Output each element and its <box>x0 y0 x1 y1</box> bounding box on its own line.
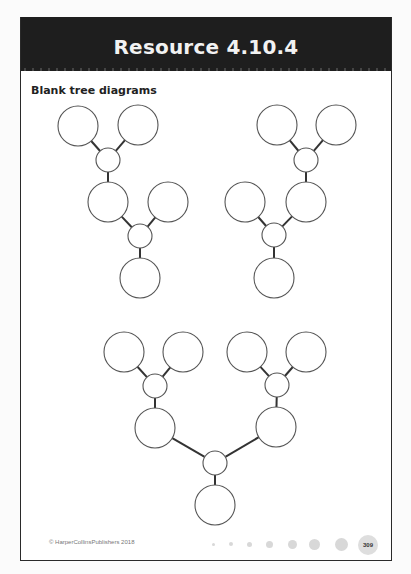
junction-node <box>294 148 318 172</box>
blank-outcome-circle <box>256 407 296 447</box>
blank-outcome-circle <box>58 106 98 146</box>
junction-node <box>96 148 120 172</box>
branch-line <box>285 367 293 376</box>
branch-line <box>148 217 156 226</box>
blank-outcome-circle <box>195 485 235 525</box>
junction-node <box>262 223 286 247</box>
junction-node <box>265 373 289 397</box>
branch-line <box>314 140 323 151</box>
blank-outcome-circle <box>225 182 265 222</box>
tree-diagrams <box>0 0 411 574</box>
branch-line <box>290 140 299 150</box>
tree-2 <box>225 105 356 298</box>
blank-outcome-circle <box>148 182 188 222</box>
branch-line <box>172 438 204 457</box>
blank-outcome-circle <box>254 258 294 298</box>
branch-line <box>122 217 132 228</box>
blank-outcome-circle <box>257 105 297 145</box>
junction-node <box>128 224 152 248</box>
blank-outcome-circle <box>286 332 326 372</box>
tree-3 <box>104 332 326 525</box>
branch-line <box>260 367 268 376</box>
blank-outcome-circle <box>118 105 158 145</box>
blank-outcome-circle <box>227 332 267 372</box>
branch-line <box>137 367 146 377</box>
blank-outcome-circle <box>104 332 144 372</box>
branch-line <box>282 216 292 226</box>
blank-outcome-circle <box>286 182 326 222</box>
branch-line <box>225 437 258 457</box>
branch-line <box>91 141 100 151</box>
branch-line <box>116 140 125 151</box>
blank-outcome-circle <box>163 332 203 372</box>
tree-1 <box>58 105 188 298</box>
blank-outcome-circle <box>135 408 175 448</box>
blank-outcome-circle <box>316 105 356 145</box>
branch-line <box>163 367 171 376</box>
junction-node <box>143 374 167 398</box>
blank-outcome-circle <box>88 182 128 222</box>
blank-outcome-circle <box>120 258 160 298</box>
branch-line <box>258 217 266 226</box>
junction-node <box>203 451 227 475</box>
